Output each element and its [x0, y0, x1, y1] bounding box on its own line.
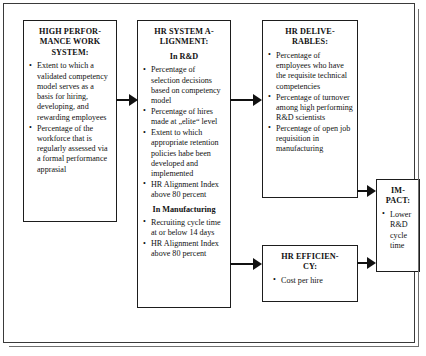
node-hr-deliverables: HR DELIVE-RABLES: Percentage of employee…: [262, 20, 358, 198]
list-item: Lower R&D cycle time: [381, 210, 415, 252]
bullet-list-rd: Percentage of selection decisions based …: [142, 65, 226, 200]
arrow-head: [129, 94, 138, 106]
node-title: HR EFFICIEN-CY:: [267, 252, 353, 273]
arrow-right-icon-hpws-to-alignment: [116, 94, 138, 106]
list-item: Percentage of employees who have the req…: [267, 51, 353, 92]
arrow-shaft: [116, 99, 130, 101]
list-item: Cost per hire: [267, 276, 353, 286]
diagram-outer-frame: HIGH PERFOR-MANCE WORKSYSTEM: Extent to …: [3, 3, 415, 343]
list-item: Percentage of selection decisions based …: [142, 65, 226, 106]
bullet-list: Cost per hire: [267, 276, 353, 286]
node-impact: IM-PACT: Lower R&D cycle time: [376, 179, 420, 272]
arrow-head: [367, 257, 376, 269]
list-item: Extent to which appropriate retention po…: [142, 128, 226, 179]
arrow-right-icon-alignment-to-deliverables: [230, 94, 263, 106]
node-title: HR SYSTEM A-LIGNMENT:: [142, 27, 226, 48]
arrow-shaft: [230, 263, 254, 265]
list-item: Extent to which a validated competency m…: [28, 61, 112, 123]
arrow-head: [367, 185, 376, 197]
bullet-list: Percentage of employees who have the req…: [267, 51, 353, 155]
section-heading-manufacturing: In Manufacturing: [142, 205, 226, 215]
arrow-head: [253, 94, 262, 106]
list-item: HR Alignment Index above 80 percent: [142, 180, 226, 201]
bullet-list-manufacturing: Recruiting cycle time at or below 14 day…: [142, 218, 226, 260]
node-high-performance-work-system: HIGH PERFOR-MANCE WORKSYSTEM: Extent to …: [23, 20, 117, 222]
arrow-shaft: [230, 99, 254, 101]
arrow-right-icon-deliverables-to-impact: [357, 185, 377, 197]
node-title: IM-PACT:: [381, 186, 415, 207]
bullet-list: Lower R&D cycle time: [381, 210, 415, 252]
node-hr-efficiency: HR EFFICIEN-CY: Cost per hire: [262, 245, 358, 302]
list-item: Percentage of turnover among high perfor…: [267, 93, 353, 124]
node-title: HIGH PERFOR-MANCE WORKSYSTEM:: [28, 27, 112, 58]
list-item: Recruiting cycle time at or below 14 day…: [142, 218, 226, 239]
list-item: Percentage of open job requisition in ma…: [267, 124, 353, 155]
section-heading-rd: In R&D: [142, 52, 226, 62]
node-hr-system-alignment: HR SYSTEM A-LIGNMENT: In R&D Percentage …: [137, 20, 231, 308]
arrow-right-icon-alignment-to-efficiency: [230, 258, 263, 270]
list-item: Percentage of the workforce that is regu…: [28, 124, 112, 175]
arrow-head: [253, 258, 262, 270]
list-item: HR Alignment Index above 80 percent: [142, 239, 226, 260]
bullet-list: Extent to which a validated competency m…: [28, 61, 112, 175]
list-item: Percentage of hires made at „elite“ leve…: [142, 107, 226, 128]
node-title: HR DELIVE-RABLES:: [267, 27, 353, 48]
arrow-right-icon-efficiency-to-impact: [357, 257, 377, 269]
